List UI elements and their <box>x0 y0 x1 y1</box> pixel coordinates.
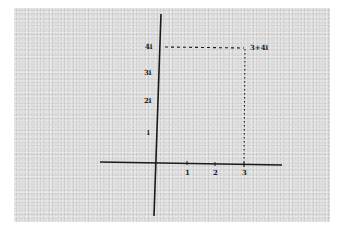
complex-plane-diagram: 4i 3i 2i i 1 2 3 3+4i <box>0 0 339 231</box>
y-label-i: i <box>147 128 150 137</box>
imaginary-axis <box>154 14 161 216</box>
point-label: 3+4i <box>250 43 269 52</box>
projection-vertical <box>244 49 245 162</box>
x-label-1: 1 <box>185 168 190 177</box>
x-label-2: 2 <box>213 168 218 177</box>
real-axis <box>100 162 282 165</box>
y-label-2i: 2i <box>144 96 152 105</box>
y-label-3i: 3i <box>144 68 152 77</box>
x-label-3: 3 <box>242 168 247 177</box>
projection-horizontal <box>165 47 244 48</box>
y-label-4i: 4i <box>145 42 153 51</box>
